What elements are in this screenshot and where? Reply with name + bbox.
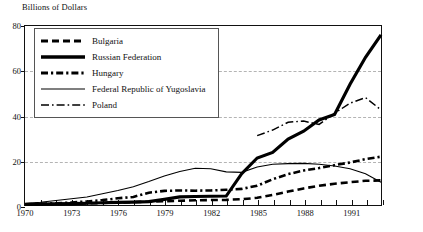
series-line [257,98,381,136]
legend-line-swatch [41,52,85,62]
y-axis-title: Billions of Dollars [22,2,87,12]
legend-item[interactable]: Federal Republic of Yugoslavia [41,81,212,97]
legend-item-label: Bulgaria [92,37,123,46]
x-axis-tick-label: 1985 [250,208,267,218]
x-axis-tick-mark [383,200,384,205]
legend: BulgariaRussian FederationHungaryFederal… [34,28,219,118]
x-axis-tick-label: 1988 [297,208,314,218]
legend-item-label: Russian Federation [92,53,161,62]
legend-item[interactable]: Poland [41,97,212,113]
legend-line-swatch [41,36,85,46]
y-axis-tick-label: 80 [13,21,22,31]
legend-line-swatch [41,68,85,78]
x-axis-tick-label: 1973 [63,208,80,218]
series-line [25,180,381,204]
legend-item-label: Federal Republic of Yugoslavia [92,85,205,94]
x-axis-tick-label: 1982 [203,208,220,218]
legend-item-label: Hungary [92,69,124,78]
x-axis-tick-label: 1976 [110,208,127,218]
legend-item[interactable]: Russian Federation [41,49,212,65]
x-axis-tick-label: 1991 [343,208,360,218]
x-axis-tick-label: 1970 [17,208,34,218]
y-axis-tick-label: 40 [13,112,22,122]
legend-item[interactable]: Bulgaria [41,33,212,49]
legend-line-swatch [41,84,85,94]
y-axis-tick-label: 20 [13,157,22,167]
y-axis-tick-label: 60 [13,66,22,76]
legend-item-label: Poland [92,101,117,110]
legend-line-swatch [41,100,85,110]
x-axis-tick-label: 1979 [157,208,174,218]
legend-item[interactable]: Hungary [41,65,212,81]
chart-figure: Billions of Dollars 020406080 1970197319… [0,0,423,232]
